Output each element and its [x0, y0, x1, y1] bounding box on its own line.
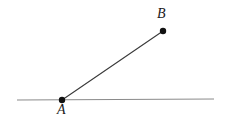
point-a-label: A [57, 103, 66, 117]
point-b-marker [160, 28, 166, 34]
geometry-figure: A B [0, 0, 225, 120]
geometry-canvas [0, 0, 225, 120]
point-b-label: B [157, 7, 166, 21]
horizontal-baseline [17, 99, 214, 100]
segment-ab [62, 31, 163, 100]
